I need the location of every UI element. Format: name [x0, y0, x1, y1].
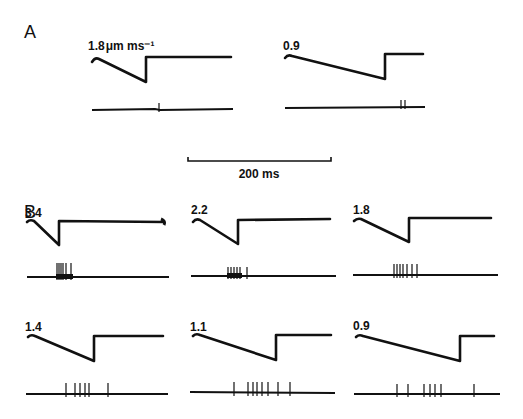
trace-b-2: 2.2	[191, 203, 336, 279]
velocity-label: 1.8	[353, 203, 370, 217]
ramp-trace	[285, 54, 423, 79]
velocity-label: 2.2	[191, 203, 208, 217]
ramp-trace	[193, 219, 330, 244]
ramp-trace	[27, 220, 164, 245]
scale-bar-line	[188, 157, 331, 161]
velocity-label: 3.4	[25, 206, 42, 220]
scale-bar: 200 ms	[188, 157, 331, 181]
trace-b-3: 1.8	[353, 203, 498, 278]
ramp-trace	[193, 334, 331, 360]
trace-b-4: 1.4	[25, 320, 168, 397]
velocity-label: 1.4	[25, 320, 42, 334]
ramp-trace	[28, 335, 163, 361]
velocity-label: 1.1	[190, 320, 207, 334]
velocity-label: 1.8	[88, 39, 105, 53]
spike-baseline	[285, 107, 425, 108]
trace-b-5: 1.1	[190, 320, 335, 396]
spike-burst	[397, 384, 474, 397]
trace-a-2: 0.9	[283, 39, 425, 109]
trace-a-1: 1.8μm ms⁻¹	[88, 39, 233, 112]
velocity-label: 0.9	[353, 319, 370, 333]
trace-b-6: 0.9	[353, 319, 500, 397]
spike-burst	[234, 382, 290, 396]
spike-burst	[227, 267, 247, 279]
spike-burst	[56, 263, 73, 280]
scale-bar-label: 200 ms	[239, 167, 280, 181]
trace-b-1: 3.4	[25, 206, 169, 280]
unit-label: μm ms⁻¹	[106, 39, 155, 53]
ramp-trace	[92, 57, 231, 82]
figure-canvas: A B 1.8μm ms⁻¹ 0.9 200 ms 3.4	[0, 0, 523, 419]
spike-baseline	[92, 109, 233, 110]
ramp-trace	[356, 335, 494, 361]
velocity-label: 0.9	[283, 39, 300, 53]
ramp-trace	[354, 218, 491, 242]
panel-label-a: A	[24, 22, 36, 42]
svg-text:1.8μm ms⁻¹: 1.8μm ms⁻¹	[88, 39, 154, 53]
